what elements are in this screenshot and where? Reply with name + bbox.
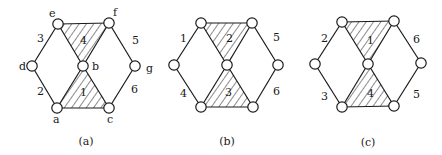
node-circle-br	[248, 102, 258, 112]
face-label: 1	[367, 34, 374, 47]
shaded-face-1	[342, 64, 394, 107]
panel-b: 142356(b)	[169, 18, 283, 148]
edge-tl-l	[174, 23, 201, 65]
panel-caption: (b)	[219, 135, 235, 148]
node-circle-bl	[337, 102, 347, 112]
face-label: 6	[131, 83, 138, 96]
panel-c: 231465(c)	[310, 16, 426, 149]
edge-tl-l	[315, 22, 342, 64]
edge-l-bl	[315, 64, 342, 107]
face-label: 4	[367, 87, 374, 100]
edge-tr-r	[252, 23, 278, 65]
face-label: 4	[80, 34, 87, 47]
diagram-figure: efdbgac324156(a)142356(b)231465(c)	[0, 0, 442, 155]
panel-a: efdbgac324156(a)	[19, 6, 153, 148]
node-label-e: e	[49, 7, 56, 20]
node-circle-d	[27, 61, 37, 71]
edge-l-bl	[174, 65, 201, 107]
face-label: 5	[273, 31, 280, 44]
node-circle-r	[273, 60, 283, 70]
face-label: 2	[226, 32, 233, 45]
face-label: 4	[180, 87, 187, 100]
node-label-a: a	[53, 113, 60, 126]
node-circle-m	[363, 59, 373, 69]
node-circle-a	[52, 103, 62, 113]
node-label-d: d	[19, 60, 26, 73]
node-circle-m	[222, 60, 232, 70]
face-label: 2	[37, 85, 44, 98]
node-label-b: b	[92, 60, 99, 73]
face-label: 5	[132, 34, 139, 47]
node-label-g: g	[146, 62, 153, 75]
face-label: 6	[273, 85, 280, 98]
node-circle-br	[389, 101, 399, 111]
panel-caption: (a)	[78, 135, 93, 148]
face-label: 2	[321, 32, 328, 45]
edge-d-a	[32, 66, 57, 108]
face-label: 1	[180, 32, 187, 45]
node-circle-l	[310, 59, 320, 69]
hexagon-graph-diagram: efdbgac324156(a)142356(b)231465(c)	[0, 0, 442, 155]
face-label: 3	[37, 32, 44, 45]
node-circle-tr	[389, 16, 399, 26]
edge-e-d	[32, 24, 58, 66]
node-circle-bl	[196, 102, 206, 112]
node-label-f: f	[113, 6, 118, 19]
node-circle-tl	[196, 18, 206, 28]
node-circle-tr	[247, 18, 257, 28]
face-label: 5	[413, 88, 420, 101]
node-circle-c	[104, 103, 114, 113]
node-circle-b	[78, 61, 88, 71]
node-circle-tl	[337, 17, 347, 27]
face-label: 6	[413, 33, 420, 46]
node-circle-r	[416, 58, 426, 68]
node-label-c: c	[107, 113, 113, 126]
face-label: 3	[225, 86, 232, 99]
panel-caption: (c)	[361, 136, 376, 149]
node-circle-l	[169, 60, 179, 70]
face-label: 3	[321, 90, 328, 103]
node-circle-g	[130, 61, 140, 71]
node-circle-e	[53, 19, 63, 29]
node-circle-f	[104, 18, 114, 28]
face-label: 1	[80, 86, 87, 99]
